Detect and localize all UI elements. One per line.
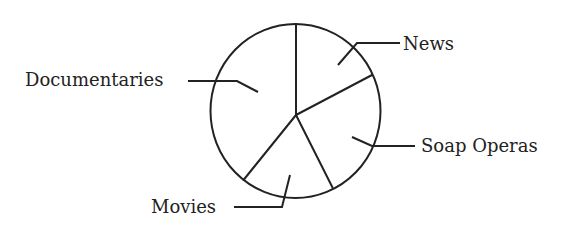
divider-news-soap-operas [296, 75, 372, 115]
soap-operas-label: Soap Operas [421, 135, 538, 156]
news-leader-line [338, 43, 400, 65]
divider-movies-documentaries [244, 115, 297, 180]
pie-chart: News Soap Operas Movies Documentaries [0, 0, 571, 234]
soap-operas-leader-line [352, 137, 415, 146]
slice-movies-callout: Movies [151, 175, 290, 217]
movies-label: Movies [151, 196, 216, 217]
news-label: News [403, 33, 454, 54]
documentaries-leader-line [188, 81, 258, 92]
slice-documentaries-callout: Documentaries [25, 69, 258, 92]
slice-soap-operas-callout: Soap Operas [352, 135, 538, 156]
divider-soap-operas-movies [296, 115, 333, 188]
documentaries-label: Documentaries [25, 69, 163, 90]
